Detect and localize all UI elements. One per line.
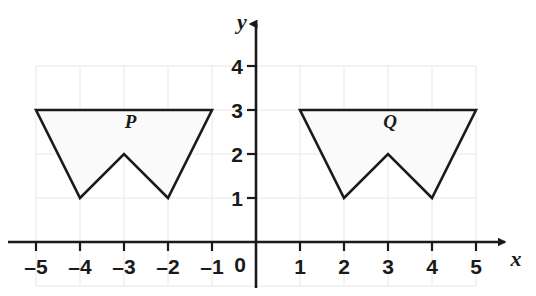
- x-tick-label: –4: [68, 255, 92, 278]
- shape-label-p: P: [124, 111, 137, 132]
- y-tick-label: 3: [231, 99, 243, 122]
- y-tick-label: 2: [231, 143, 243, 166]
- x-tick-label: 5: [470, 255, 482, 278]
- x-tick-label: 2: [338, 255, 350, 278]
- y-tick-label: 4: [231, 55, 243, 78]
- x-tick-label: –1: [200, 255, 224, 278]
- x-tick-label: 1: [294, 255, 306, 278]
- x-tick-label: 3: [382, 255, 394, 278]
- x-tick-label: –3: [112, 255, 135, 278]
- coordinate-plane-figure: –5–4–3–2–112345 1234 0 y x PQ: [0, 0, 536, 296]
- shape-label-q: Q: [383, 111, 397, 132]
- x-tick-label: –5: [24, 255, 48, 278]
- origin-label: 0: [234, 253, 246, 276]
- x-axis-label: x: [510, 246, 522, 271]
- x-tick-label: –2: [156, 255, 179, 278]
- x-tick-label: 4: [426, 255, 438, 278]
- y-tick-label: 1: [231, 187, 243, 210]
